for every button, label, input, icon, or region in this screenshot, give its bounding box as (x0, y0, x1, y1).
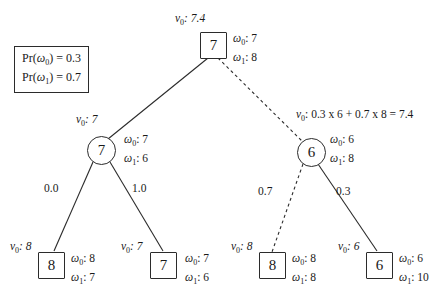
leaf2-omega-labels: ω0: 7 ω1: 6 (185, 250, 209, 288)
right-node-omega0: ω0: 6 (330, 131, 354, 150)
left-node-v0-label: v0: 7 (76, 112, 98, 129)
leaf-node-2[interactable]: 7 (150, 252, 177, 279)
expected-value-calculation: v0: 0.3 x 6 + 0.7 x 8 = 7.4 (296, 108, 413, 123)
edge-label-right-0: 0.7 (258, 186, 272, 198)
edge-left-node-to-leaf2 (110, 162, 163, 251)
right-node-omega-labels: ω0: 6 ω1: 8 (330, 131, 354, 169)
leaf-node-3-value: 8 (269, 258, 277, 273)
root-omega1: ω1: 8 (233, 49, 257, 68)
prior-omega1-line: Pr(ω1) = 0.7 (22, 69, 81, 88)
root-node-value: 7 (210, 38, 218, 53)
leaf4-omega0: ω0: 6 (399, 250, 429, 269)
leaf-node-4-value: 6 (376, 258, 384, 273)
leaf3-omega0: ω0: 8 (292, 250, 316, 269)
leaf-node-1-value: 8 (48, 258, 56, 273)
leaf1-omega-labels: ω0: 8 ω1: 7 (71, 250, 95, 288)
leaf4-omega-labels: ω0: 6 ω1: 10 (399, 250, 429, 288)
leaf4-omega1: ω1: 10 (399, 269, 429, 288)
left-internal-node-value: 7 (98, 143, 106, 158)
leaf2-v0-label: v0: 7 (121, 239, 143, 256)
edge-label-left-1: 1.0 (132, 183, 146, 195)
prior-probability-box: Pr(ω0) = 0.3 Pr(ω1) = 0.7 (14, 46, 89, 93)
root-omega0: ω0: 7 (233, 30, 257, 49)
left-node-omega-labels: ω0: 7 ω1: 6 (124, 131, 148, 169)
root-omega-labels: ω0: 7 ω1: 8 (233, 30, 257, 68)
root-node[interactable]: 7 (200, 32, 227, 59)
leaf1-omega1: ω1: 7 (71, 269, 95, 288)
right-node-omega1: ω1: 8 (330, 150, 354, 169)
edge-left-node-to-leaf1 (54, 162, 93, 251)
leaf-node-4[interactable]: 6 (366, 252, 393, 279)
edge-right-node-to-leaf3 (272, 164, 303, 252)
leaf1-omega0: ω0: 8 (71, 250, 95, 269)
decision-tree-diagram: Pr(ω0) = 0.3 Pr(ω1) = 0.7 v0: 7.4 7 ω0: … (0, 0, 434, 291)
edge-root-to-right-node (218, 58, 303, 142)
edge-right-node-to-leaf4 (318, 164, 377, 251)
leaf2-omega1: ω1: 6 (185, 269, 209, 288)
edge-label-right-1: 0.3 (336, 186, 350, 198)
left-internal-node[interactable]: 7 (87, 136, 116, 165)
left-node-omega1: ω1: 6 (124, 150, 148, 169)
leaf3-omega1: ω1: 8 (292, 269, 316, 288)
leaf3-omega-labels: ω0: 8 ω1: 8 (292, 250, 316, 288)
leaf-node-1[interactable]: 8 (38, 252, 65, 279)
leaf2-omega0: ω0: 7 (185, 250, 209, 269)
right-internal-node[interactable]: 6 (297, 138, 326, 167)
leaf4-v0-label: v0: 6 (338, 239, 360, 256)
leaf-node-3[interactable]: 8 (259, 252, 286, 279)
edge-root-to-left-node (108, 58, 208, 139)
leaf-node-2-value: 7 (160, 258, 168, 273)
edge-label-left-0: 0.0 (44, 183, 58, 195)
leaf3-v0-label: v0: 8 (231, 239, 253, 256)
right-internal-node-value: 6 (308, 145, 316, 160)
left-node-omega0: ω0: 7 (124, 131, 148, 150)
leaf1-v0-label: v0: 8 (10, 239, 32, 256)
prior-omega0-line: Pr(ω0) = 0.3 (22, 50, 81, 69)
root-v0-label: v0: 7.4 (175, 11, 205, 28)
